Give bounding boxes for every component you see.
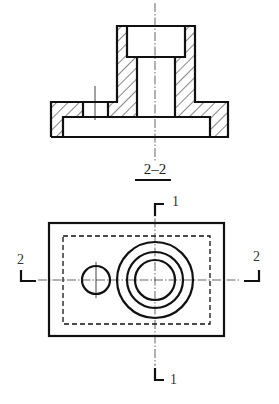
cutting-plane-1-label-bottom: 1 (170, 372, 177, 387)
section-view: 2–2 (51, 3, 228, 180)
cutting-plane-1-label-top: 1 (172, 194, 179, 209)
top-view: 1 1 2 2 (17, 194, 260, 387)
section-hatching (51, 26, 228, 137)
outer-outline (49, 223, 224, 336)
cutting-plane-2-label-left: 2 (17, 252, 24, 267)
section-outline (51, 26, 228, 137)
section-title: 2–2 (144, 161, 167, 177)
cutting-plane-2-label-right: 2 (253, 249, 260, 264)
technical-drawing: 2–2 1 1 2 2 (0, 0, 279, 404)
